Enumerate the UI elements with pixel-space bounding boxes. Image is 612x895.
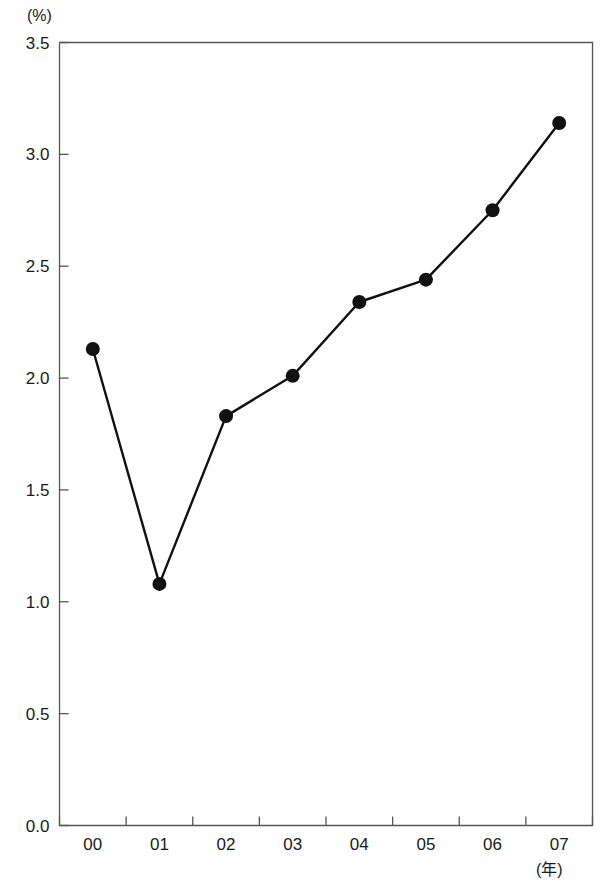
data-point-marker <box>352 295 366 309</box>
data-point-marker <box>86 342 100 356</box>
line-chart: (%) (年) 0.00.51.01.52.02.53.03.5 0001020… <box>0 0 612 895</box>
x-axis-tick-labels: 0001020304050607 <box>83 835 568 854</box>
data-point-marker <box>152 577 166 591</box>
y-tick-label: 2.5 <box>26 257 50 276</box>
data-point-marker <box>286 369 300 383</box>
data-point-marker <box>219 409 233 423</box>
y-tick-label: 0.0 <box>26 817 50 836</box>
y-tick-label: 1.5 <box>26 481 50 500</box>
plot-area: 0.00.51.01.52.02.53.03.5 000102030405060… <box>0 0 612 895</box>
x-tick-label: 06 <box>483 835 502 854</box>
y-axis-tick-labels: 0.00.51.01.52.02.53.03.5 <box>26 34 50 836</box>
series-line <box>93 123 559 584</box>
x-tick-label: 03 <box>283 835 302 854</box>
data-point-marker <box>552 116 566 130</box>
y-tick-label: 3.0 <box>26 145 50 164</box>
data-series <box>86 116 566 591</box>
y-tick-label: 1.0 <box>26 593 50 612</box>
x-tick-label: 01 <box>150 835 169 854</box>
x-tick-label: 05 <box>416 835 435 854</box>
y-tick-label: 2.0 <box>26 369 50 388</box>
data-point-marker <box>419 273 433 287</box>
x-tick-label: 00 <box>83 835 102 854</box>
data-point-marker <box>486 203 500 217</box>
axis-tick-marks <box>60 43 593 826</box>
x-tick-label: 07 <box>550 835 569 854</box>
y-tick-label: 3.5 <box>26 34 50 53</box>
y-tick-label: 0.5 <box>26 705 50 724</box>
axis-frame <box>60 43 593 826</box>
x-tick-label: 04 <box>350 835 369 854</box>
x-tick-label: 02 <box>217 835 236 854</box>
